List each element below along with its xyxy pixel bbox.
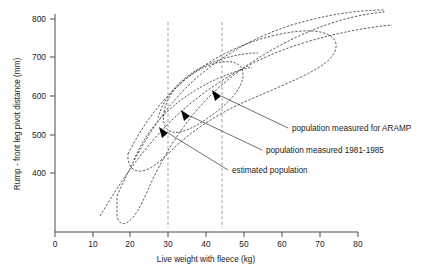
annotation-label-estimated: estimated population bbox=[232, 166, 308, 175]
y-tick-label-400: 400 bbox=[32, 168, 46, 178]
x-tick-label-50: 50 bbox=[239, 239, 249, 249]
x-tick-label-0: 0 bbox=[53, 239, 58, 249]
x-tick-label-60: 60 bbox=[277, 239, 287, 249]
x-tick-label-40: 40 bbox=[201, 239, 211, 249]
x-axis-title: Live weight with fleece (kg) bbox=[157, 255, 256, 264]
contour-curves bbox=[100, 10, 392, 224]
x-axis-tick-labels: 0 10 20 30 40 50 60 70 80 bbox=[53, 239, 363, 249]
leader-line-measured-1981 bbox=[190, 116, 262, 150]
y-tick-label-500: 500 bbox=[32, 130, 46, 140]
reference-lines bbox=[168, 22, 222, 228]
marker-aramp bbox=[212, 90, 221, 101]
y-axis-title: Rump - front leg pivot distance (mm) bbox=[13, 58, 22, 191]
annotation-labels: population measured for ARAMP population… bbox=[232, 124, 412, 175]
contour-inner-trace-b bbox=[134, 67, 252, 160]
contour-inner-trace-a bbox=[158, 53, 258, 118]
leader-line-estimated bbox=[168, 133, 228, 170]
annotation-label-measured-1981: population measured 1981-1985 bbox=[266, 146, 384, 155]
y-axis-ticks bbox=[50, 19, 55, 173]
x-axis-ticks bbox=[55, 232, 358, 237]
annotation-label-aramp: population measured for ARAMP bbox=[292, 124, 412, 133]
x-tick-label-20: 20 bbox=[125, 239, 135, 249]
y-tick-label-700: 700 bbox=[32, 52, 46, 62]
x-tick-label-10: 10 bbox=[88, 239, 98, 249]
y-axis-tick-labels: 800 700 600 500 400 bbox=[32, 14, 46, 178]
annotation-leader-lines bbox=[168, 96, 288, 170]
y-tick-label-600: 600 bbox=[32, 91, 46, 101]
leader-line-aramp bbox=[221, 96, 288, 128]
marker-measured-1981 bbox=[181, 110, 190, 121]
x-tick-label-30: 30 bbox=[163, 239, 173, 249]
y-tick-label-800: 800 bbox=[32, 14, 46, 24]
chart-figure: 800 700 600 500 400 0 10 20 30 40 50 60 … bbox=[0, 0, 438, 274]
x-tick-label-80: 80 bbox=[353, 239, 363, 249]
x-tick-label-70: 70 bbox=[315, 239, 325, 249]
